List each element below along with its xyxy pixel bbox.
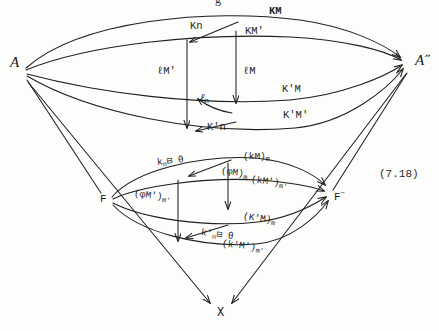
label-KprimeMprime: K'M' xyxy=(283,110,308,121)
upper-vertical-arrows xyxy=(187,31,236,128)
node-A-double-prime: A˝ xyxy=(415,53,429,68)
label-phiMprime-subscript: m' xyxy=(162,196,171,205)
line-Adbl-X xyxy=(232,74,406,303)
label-kprimeMprime-subscript: m' xyxy=(255,246,264,255)
upper-lens-curves xyxy=(26,16,403,130)
equation-number: (7.18) xyxy=(379,168,419,180)
label-kM-m: (kM)m xyxy=(243,152,270,163)
top-cropped-glyph: g xyxy=(215,0,221,7)
label-KprimeM: K'M xyxy=(282,84,301,95)
curve-KM xyxy=(26,16,400,68)
node-X: X xyxy=(217,307,224,319)
commutative-diagram xyxy=(0,0,439,331)
node-A: A xyxy=(10,55,19,70)
outer-cone-lines xyxy=(27,73,407,303)
line-A-F xyxy=(27,80,101,193)
label-kMprime-subscript: m' xyxy=(279,182,288,191)
label-kMprime-base: (kM') xyxy=(250,174,280,188)
label-lM: ℓM xyxy=(243,66,256,77)
node-F: F xyxy=(100,194,107,205)
label-lMprime: ℓM' xyxy=(157,66,176,77)
label-kM-base: (kM) xyxy=(243,151,266,162)
label-phiMprime-base: (φM') xyxy=(133,188,163,202)
label-KMprime: KM' xyxy=(245,26,264,37)
label-Kn: Kn xyxy=(190,21,203,32)
node-F-double-prime: F˝ xyxy=(334,192,347,203)
label-l-subscript: n xyxy=(204,97,209,105)
curve-KMp xyxy=(26,36,401,70)
label-l-sub-n: ℓn xyxy=(200,93,209,106)
label-phiM-base: (φM) xyxy=(220,165,244,179)
label-kM-subscript: m xyxy=(266,155,270,163)
label-Kprime-n: K'n xyxy=(207,122,226,133)
label-KprimeM-base: (K'M) xyxy=(242,211,272,225)
label-kn-tail: ⊟ θ xyxy=(166,154,184,167)
label-KM: KM xyxy=(269,6,282,17)
figure-canvas: A A˝ F F˝ X g KM Kn KM' ℓM' ℓM ℓn K'n K'… xyxy=(0,0,439,331)
line-A-X xyxy=(28,82,210,303)
curve-KpM xyxy=(27,65,402,102)
